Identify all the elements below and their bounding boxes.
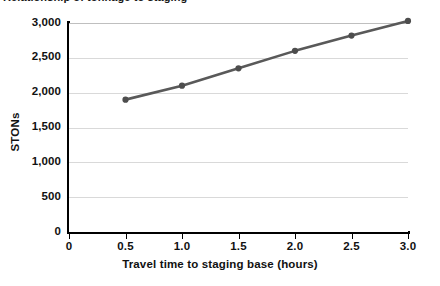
gridline-y <box>69 58 408 59</box>
x-axis-tick-mark <box>126 233 127 239</box>
x-axis-tick-mark <box>352 233 353 239</box>
y-axis-tick-label: 1,000 <box>5 155 61 167</box>
gridline-y <box>69 197 408 198</box>
x-axis-tick-mark <box>408 233 409 239</box>
gridline-y <box>69 93 408 94</box>
x-axis-tick-label: 0 <box>44 240 94 252</box>
x-axis-tick-label: 1.0 <box>157 240 207 252</box>
x-axis-tick-label: 3.0 <box>383 240 433 252</box>
x-axis-tick-mark <box>69 233 70 239</box>
gridline-y <box>69 23 408 24</box>
gridline-y <box>69 162 408 163</box>
x-axis-tick-label: 2.5 <box>327 240 377 252</box>
y-axis-tick-label: 500 <box>5 190 61 202</box>
x-axis-tick-label: 2.0 <box>270 240 320 252</box>
plot-area <box>69 23 408 232</box>
gridline-y <box>69 128 408 129</box>
chart-figure: Relationship of tonnage to staging STONs… <box>0 0 440 286</box>
x-axis-tick-mark <box>239 233 240 239</box>
x-axis-tick-mark <box>295 233 296 239</box>
chart-title-text: Relationship of tonnage to staging <box>3 0 187 3</box>
y-axis-tick-label: 2,000 <box>5 85 61 97</box>
x-axis-tick-label: 0.5 <box>101 240 151 252</box>
chart-title-cropped: Relationship of tonnage to staging <box>0 0 440 9</box>
x-axis-tick-mark <box>182 233 183 239</box>
y-axis-tick-label: 2,500 <box>5 50 61 62</box>
y-axis-title: STONs <box>9 102 21 162</box>
x-axis-tick-label: 1.5 <box>214 240 264 252</box>
y-axis-tick-label: 3,000 <box>5 16 61 28</box>
x-axis-title: Travel time to staging base (hours) <box>0 258 440 270</box>
y-axis-tick-label: 1,500 <box>5 120 61 132</box>
y-axis-tick-label: 0 <box>5 225 61 237</box>
